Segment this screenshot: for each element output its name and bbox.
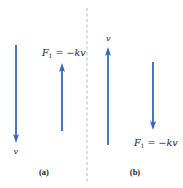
force-label-a: F1 = −kv bbox=[41, 47, 86, 59]
panel-b: v F1 = −kv (b) bbox=[105, 34, 178, 177]
velocity-label-a: v bbox=[14, 147, 19, 156]
drag-force-diagram: v F1 = −kv (a) v F1 = −kv (b) bbox=[0, 0, 183, 188]
force-label-b: F1 = −kv bbox=[133, 137, 178, 149]
panel-label-a: (a) bbox=[39, 167, 49, 177]
panel-a: v F1 = −kv (a) bbox=[13, 45, 86, 177]
panel-label-b: (b) bbox=[130, 167, 141, 177]
velocity-label-b: v bbox=[106, 34, 111, 43]
